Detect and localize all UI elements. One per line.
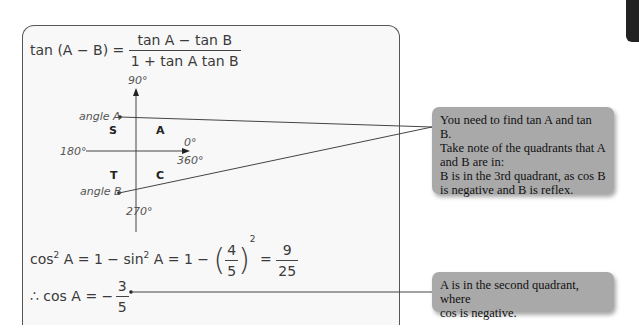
quadrant-s: S: [109, 124, 117, 137]
equals: =: [260, 251, 272, 267]
numerator: 4: [225, 240, 238, 261]
callout-line: cos is negative.: [440, 306, 606, 320]
numerator: 9: [276, 240, 298, 261]
callout-quadrants-note: You need to find tan A and tan B. Take n…: [432, 107, 614, 194]
callout-line: and B are in:: [440, 155, 606, 169]
cos-a-lhs: ∴ cos A = −: [30, 288, 113, 304]
callout-line: A is in the second quadrant, where: [440, 278, 606, 306]
callout-line: Take note of the quadrants that A: [440, 141, 606, 155]
callout-second-quadrant-note: A is in the second quadrant, where cos i…: [432, 272, 614, 312]
sin-term: A = 1 − sin: [64, 251, 144, 267]
right-paren: ): [238, 242, 250, 277]
numerator: 3: [116, 276, 129, 297]
exponent: 2: [54, 250, 60, 260]
axis-label-90: 90°: [128, 74, 148, 87]
fraction-three-fifths: 3 5: [116, 276, 129, 317]
axis-label-360: 360°: [177, 154, 204, 167]
left-paren: (: [214, 242, 226, 277]
axis-label-180: 180°: [60, 145, 87, 158]
denominator: 25: [276, 261, 298, 281]
fraction-nine-25ths: 925: [276, 240, 298, 281]
fraction-four-fifths: 45: [225, 240, 238, 281]
angle-a-label: angle A: [79, 110, 121, 123]
callout-line: B is in the 3rd quadrant, as cos B: [440, 169, 606, 183]
quadrant-a: A: [156, 124, 165, 137]
quadrant-t: T: [110, 169, 118, 182]
angle-b-label: angle B: [80, 185, 122, 198]
callout-line: is negative and B is reflex.: [440, 183, 606, 197]
axis-label-0: 0°: [184, 136, 197, 149]
denominator: 5: [225, 261, 238, 281]
callout-line: You need to find tan A and tan B.: [440, 113, 606, 141]
cos-squared-equation: cos2 A = 1 − sin2 A = 1 − (45)2 = 925: [30, 234, 298, 281]
axis-label-270: 270°: [126, 205, 153, 218]
equation-middle: A = 1 −: [154, 251, 209, 267]
cos-a-equation: ∴ cos A = − 3 5: [30, 276, 129, 317]
exponent: 2: [250, 234, 256, 244]
quadrant-c: C: [156, 169, 164, 182]
denominator: 5: [116, 297, 129, 317]
exponent: 2: [144, 250, 150, 260]
cos-term: cos: [30, 251, 54, 267]
